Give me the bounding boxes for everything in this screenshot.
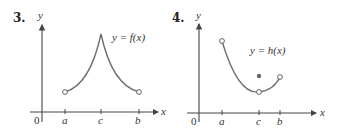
function-label: y = f(x) — [111, 31, 145, 44]
tick-label-b: b — [135, 114, 141, 126]
y-axis-label: y — [37, 9, 43, 21]
y-axis-label: y — [195, 9, 201, 21]
x-axis-label: x — [319, 106, 325, 118]
figure-number: 3. — [13, 11, 26, 25]
origin-label: 0 — [34, 114, 40, 126]
x-axis-label: x — [160, 105, 166, 117]
tick-label-a: a — [219, 115, 225, 127]
figures-canvas: 3. y x 0 a c b y = f(x) 4. y x 0 a c b y — [0, 0, 344, 136]
open-circle-a — [63, 90, 68, 95]
tick-label-b: b — [277, 115, 283, 127]
filled-point-c — [257, 74, 261, 78]
open-circle-a — [220, 39, 225, 44]
figure-number: 4. — [172, 11, 185, 25]
figure-3: 3. y x 0 a c b y = f(x) — [13, 9, 166, 126]
open-circle-c — [257, 90, 262, 95]
tick-label-c: c — [256, 115, 261, 127]
function-label: y = h(x) — [249, 44, 286, 57]
open-circle-b — [137, 90, 142, 95]
open-circle-b — [278, 75, 283, 80]
tick-label-a: a — [62, 114, 68, 126]
origin-label: 0 — [191, 115, 197, 127]
figure-4: 4. y x 0 a c b y = h(x) — [172, 9, 325, 127]
tick-label-c: c — [98, 114, 103, 126]
